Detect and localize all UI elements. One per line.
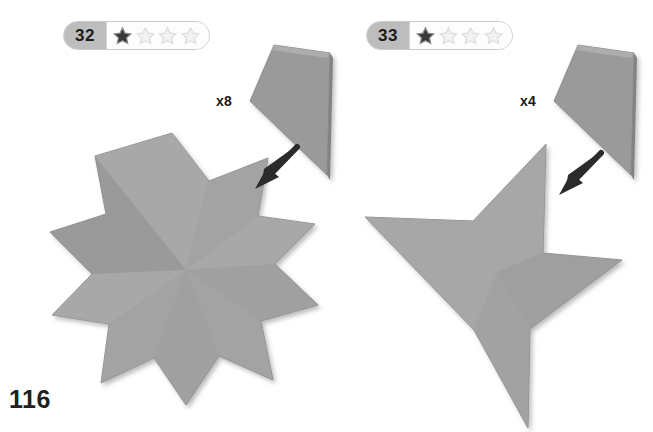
difficulty-star-icon xyxy=(135,26,156,46)
difficulty-star-icon xyxy=(157,26,178,46)
four-pointed-pinwheel-star-shape xyxy=(365,144,622,428)
eight-pointed-star-facets xyxy=(52,133,318,405)
assembly-arrow-right xyxy=(559,152,601,195)
difficulty-rating-32 xyxy=(107,22,209,49)
difficulty-star-icon xyxy=(438,26,459,46)
difficulty-star-icon xyxy=(112,26,133,46)
model-number-33: 33 xyxy=(367,22,410,49)
difficulty-star-icon xyxy=(180,26,201,46)
difficulty-star-icon xyxy=(415,26,436,46)
four-pointed-pinwheel-facets xyxy=(365,144,622,428)
assembly-arrow-left xyxy=(255,146,297,189)
difficulty-badge-33: 33 xyxy=(366,21,513,50)
model-number-32: 32 xyxy=(64,22,107,49)
unit-multiplier-32: x8 xyxy=(216,93,232,109)
eight-pointed-star-shape xyxy=(50,133,318,405)
difficulty-star-icon xyxy=(460,26,481,46)
kite-unit-right xyxy=(554,45,637,180)
instruction-page: 32 3 xyxy=(0,0,653,432)
artwork-layer xyxy=(0,0,653,432)
kite-unit-left xyxy=(250,45,333,180)
difficulty-star-icon xyxy=(483,26,504,46)
page-number: 116 xyxy=(9,385,51,414)
difficulty-badge-32: 32 xyxy=(63,21,210,50)
difficulty-rating-33 xyxy=(410,22,512,49)
unit-multiplier-33: x4 xyxy=(520,93,536,109)
